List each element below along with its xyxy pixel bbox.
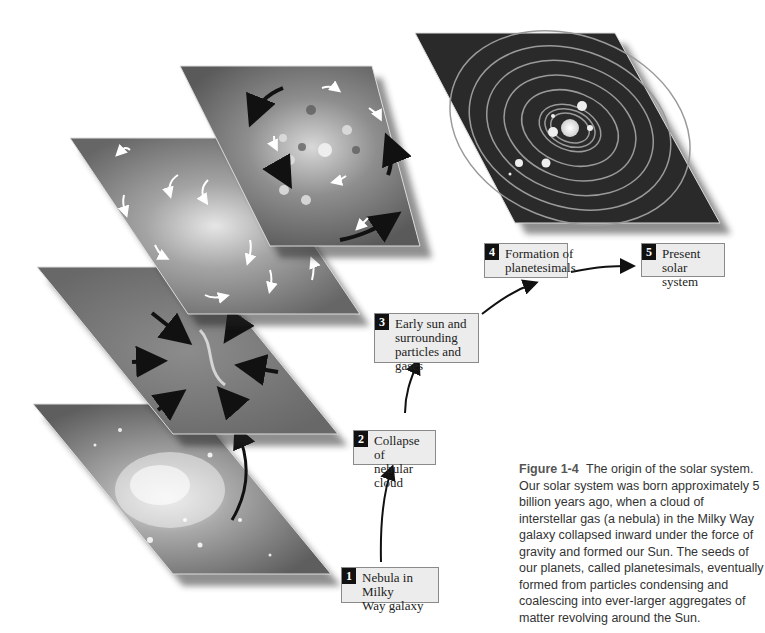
stage-label-3: 3 Early sun and surrounding particles an…	[374, 313, 479, 363]
figure-caption: Figure 1-4 The origin of the solar syste…	[519, 461, 764, 626]
stage-label-text: Collapse of nebular cloud	[374, 434, 429, 490]
figure-number: Figure 1-4	[519, 462, 579, 476]
stage-label-1: 1 Nebula in Milky Way galaxy	[341, 567, 439, 603]
stage-label-4: 4 Formation of planetesimals	[484, 243, 568, 278]
stage-number-badge: 1	[342, 568, 356, 584]
origin-of-solar-system-diagram: 1 Nebula in Milky Way galaxy 2 Collapse …	[0, 0, 765, 633]
stage-label-text: Formation of planetesimals	[505, 247, 576, 275]
stage-number-badge: 3	[375, 314, 389, 330]
stage-label-text: Nebula in Milky Way galaxy	[362, 571, 432, 613]
panel-solar-system-orbits	[415, 0, 731, 260]
figure-caption-text: The origin of the solar system. Our sola…	[519, 462, 764, 625]
stage-label-2: 2 Collapse of nebular cloud	[353, 430, 436, 465]
stage-label-text: Early sun and surrounding particles and …	[395, 317, 472, 373]
stage-number-badge: 2	[354, 431, 368, 447]
stage-number-badge: 5	[642, 244, 656, 260]
stage-label-text: Present solar system	[662, 247, 718, 289]
stage-label-5: 5 Present solar system	[641, 243, 725, 277]
stage-number-badge: 4	[485, 244, 499, 260]
